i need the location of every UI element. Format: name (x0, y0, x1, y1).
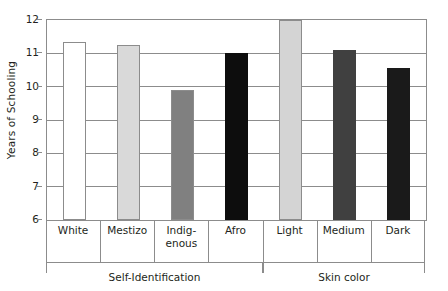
y-axis-title-text: Years of Schooling (5, 60, 17, 158)
y-tick-mark-10 (37, 86, 42, 87)
plot-area (46, 19, 427, 221)
y-tick-mark-6 (37, 219, 42, 220)
group-label-band: Self-IdentificationSkin color (46, 262, 425, 291)
y-tick-mark-7 (37, 186, 42, 187)
bar-dark (387, 68, 410, 220)
category-cell-0: White (46, 220, 100, 262)
category-separator-1 (100, 220, 101, 262)
category-label-medium: Medium (323, 224, 365, 237)
group-label-0: Self-Identification (109, 271, 201, 283)
group-label-1: Skin color (318, 271, 370, 283)
bar-white (63, 42, 86, 220)
bar-light (279, 20, 302, 220)
category-separator-6 (371, 220, 372, 262)
y-tick-mark-9 (37, 119, 42, 120)
category-label-white: White (58, 224, 89, 237)
category-cell-3: Afro (208, 220, 262, 262)
y-axis-title: Years of Schooling (0, 0, 22, 219)
y-tick-mark-12 (37, 19, 42, 20)
bar-afro (225, 53, 248, 220)
category-separator-3 (208, 220, 209, 262)
bar-mestizo (117, 45, 140, 220)
category-band-edge-0 (46, 220, 47, 262)
group-cell-1: Skin color (263, 263, 425, 291)
category-cell-6: Dark (371, 220, 425, 262)
category-label-mestizo: Mestizo (107, 224, 147, 237)
group-cell-0: Self-Identification (46, 263, 263, 291)
bar-chart-figure: Years of Schooling 6789101112 WhiteMesti… (0, 0, 448, 291)
category-cell-5: Medium (317, 220, 371, 262)
category-band-edge-1 (424, 220, 425, 262)
category-label-light: Light (277, 224, 303, 237)
bar-medium (333, 50, 356, 220)
category-label-dark: Dark (385, 224, 410, 237)
group-divider-1-1 (424, 262, 425, 273)
category-cell-1: Mestizo (100, 220, 154, 262)
category-cell-2: Indig- enous (154, 220, 208, 262)
category-cell-4: Light (263, 220, 317, 262)
category-label-afro: Afro (225, 224, 246, 237)
group-divider-0-0 (46, 262, 47, 273)
category-label-band: WhiteMestizoIndig- enousAfroLightMediumD… (46, 220, 425, 262)
group-divider-1-0 (263, 262, 264, 273)
bar-indigenous (171, 90, 194, 220)
y-tick-mark-8 (37, 152, 42, 153)
category-separator-5 (317, 220, 318, 262)
y-tick-mark-11 (37, 52, 42, 53)
category-label-indigenous: Indig- enous (166, 224, 198, 250)
y-axis-tick-labels: 6789101112 (22, 19, 42, 219)
category-separator-2 (154, 220, 155, 262)
category-separator-4 (263, 220, 264, 262)
